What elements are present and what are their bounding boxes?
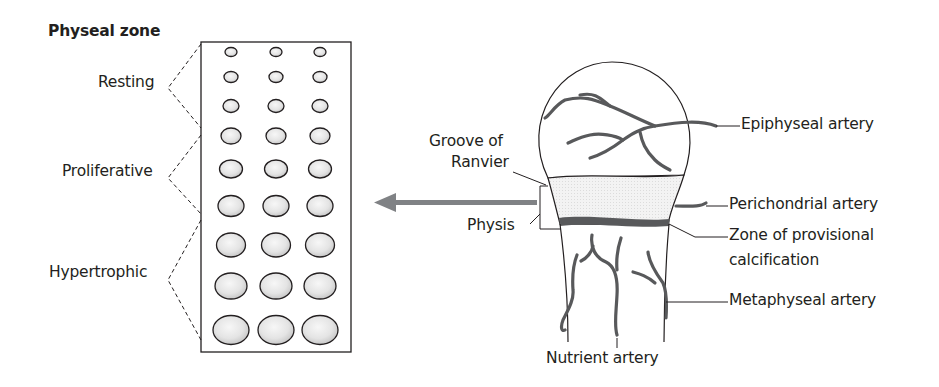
label-groove-line1: Groove of (429, 133, 503, 151)
label-epiphyseal-artery: Epiphyseal artery (741, 116, 874, 134)
label-groove-line2: Ranvier (451, 154, 509, 172)
chondrocyte-column (201, 42, 351, 352)
resting-bracket (168, 44, 201, 128)
zone-label-proliferative: Proliferative (62, 163, 153, 181)
groove-leader (513, 172, 546, 185)
metaphyseal-vessel (648, 252, 667, 318)
zone-label-resting: Resting (98, 74, 154, 92)
proliferative-bracket (168, 135, 201, 214)
label-perichondrial-artery: Perichondrial artery (729, 196, 878, 214)
nutrient-vessel (592, 235, 618, 335)
zone-brackets (168, 44, 201, 340)
label-zpc-line2: calcification (729, 252, 819, 270)
label-metaphyseal-artery: Metaphyseal artery (729, 292, 876, 310)
perichondrial-vessel (676, 203, 706, 206)
diagram-title: Physeal zone (48, 23, 160, 41)
zpc-leader (669, 224, 728, 237)
physis-leader (530, 214, 540, 224)
hypertrophic-bracket (168, 220, 201, 340)
label-physis: Physis (467, 217, 515, 235)
label-nutrient-artery: Nutrient artery (546, 350, 659, 368)
arrow-left-icon (374, 193, 537, 212)
physeal-zone-diagram (0, 0, 939, 387)
label-zpc-line1: Zone of provisional (729, 227, 874, 245)
zone-label-hypertrophic: Hypertrophic (49, 264, 147, 282)
